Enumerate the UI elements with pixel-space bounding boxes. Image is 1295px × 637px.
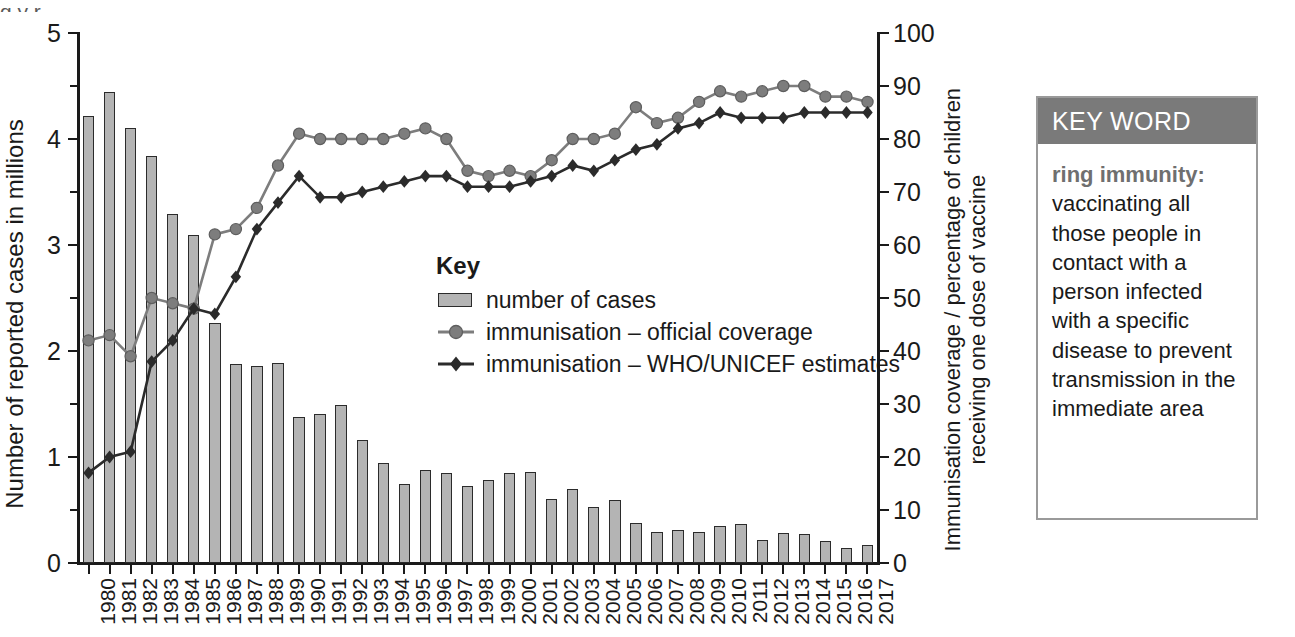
- diamond-marker: [694, 117, 705, 130]
- key-word-box: KEY WORD ring immunity: vaccinating all …: [1036, 96, 1258, 520]
- diamond-marker: [420, 170, 431, 183]
- diamond-marker: [841, 106, 852, 119]
- circle-marker: [609, 128, 620, 139]
- legend-label: immunisation – WHO/UNICEF estimates: [486, 351, 900, 378]
- diamond-marker: [631, 143, 642, 156]
- legend: Key number of cases immunisation – offic…: [434, 252, 864, 380]
- circle-marker: [757, 86, 768, 97]
- diamond-marker: [357, 186, 368, 199]
- diamond-marker: [862, 106, 873, 119]
- circle-marker: [672, 112, 683, 123]
- circle-marker: [441, 133, 452, 144]
- legend-label: immunisation – official coverage: [486, 319, 813, 346]
- diamond-marker: [483, 180, 494, 193]
- diamond-marker: [399, 175, 410, 188]
- bar-swatch-icon: [434, 288, 478, 312]
- diamond-marker: [610, 154, 621, 167]
- figure: g y r Number of reported cases in millio…: [0, 0, 1295, 637]
- circle-marker: [357, 133, 368, 144]
- diamond-marker: [462, 180, 473, 193]
- circle-marker: [294, 128, 305, 139]
- circle-marker: [651, 118, 662, 129]
- circle-marker: [399, 128, 410, 139]
- diamond-marker: [736, 111, 747, 124]
- circle-marker: [736, 91, 747, 102]
- legend-item-cases: number of cases: [434, 284, 864, 316]
- circle-marker: [336, 133, 347, 144]
- legend-label: number of cases: [486, 287, 656, 314]
- diamond-marker: [378, 180, 389, 193]
- key-word-definition: vaccinating all those people in contact …: [1052, 191, 1235, 421]
- chart: Number of reported cases in millions Imm…: [0, 0, 1000, 637]
- diamond-line-icon: [434, 352, 478, 376]
- circle-marker: [715, 86, 726, 97]
- circle-marker: [862, 96, 873, 107]
- diamond-marker: [589, 164, 600, 177]
- circle-marker: [378, 133, 389, 144]
- circle-marker: [567, 133, 578, 144]
- key-word-body: ring immunity: vaccinating all those peo…: [1038, 144, 1256, 433]
- circle-marker: [841, 91, 852, 102]
- circle-marker: [778, 80, 789, 91]
- diamond-marker: [441, 170, 452, 183]
- circle-marker: [420, 123, 431, 134]
- circle-marker: [630, 102, 641, 113]
- diamond-marker: [820, 106, 831, 119]
- circle-marker: [230, 224, 241, 235]
- circle-marker: [251, 202, 262, 213]
- circle-marker: [483, 171, 494, 182]
- legend-title: Key: [436, 252, 864, 280]
- diamond-marker: [568, 159, 579, 172]
- diamond-marker: [104, 451, 115, 464]
- circle-marker: [104, 330, 115, 341]
- circle-marker: [820, 91, 831, 102]
- diamond-marker: [336, 191, 347, 204]
- circle-line-icon: [434, 320, 478, 344]
- circle-marker: [146, 292, 157, 303]
- diamond-marker: [673, 122, 683, 135]
- circle-marker: [315, 133, 326, 144]
- circle-marker: [125, 351, 136, 362]
- circle-marker: [546, 155, 557, 166]
- circle-marker: [504, 165, 515, 176]
- diamond-marker: [778, 111, 789, 124]
- diamond-marker: [83, 467, 94, 480]
- diamond-marker: [504, 180, 515, 193]
- circle-marker: [167, 298, 178, 309]
- circle-marker: [272, 160, 283, 171]
- circle-marker: [799, 80, 810, 91]
- diamond-marker: [125, 445, 135, 458]
- circle-marker: [83, 335, 94, 346]
- circle-marker: [694, 96, 705, 107]
- key-word-term: ring immunity:: [1052, 162, 1205, 187]
- legend-item-official-coverage: immunisation – official coverage: [434, 316, 864, 348]
- circle-marker: [209, 229, 220, 240]
- diamond-marker: [799, 106, 810, 119]
- legend-item-who-unicef: immunisation – WHO/UNICEF estimates: [434, 348, 864, 380]
- diamond-marker: [652, 138, 663, 151]
- key-word-header: KEY WORD: [1038, 98, 1256, 144]
- diamond-marker: [757, 111, 768, 124]
- diamond-marker: [546, 170, 557, 183]
- diamond-marker: [715, 106, 726, 119]
- circle-marker: [588, 133, 599, 144]
- circle-marker: [462, 165, 473, 176]
